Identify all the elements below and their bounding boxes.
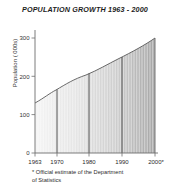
chart-title: POPULATION GROWTH 1963 - 2000 (0, 5, 170, 14)
population-growth-chart: POPULATION GROWTH 1963 - 2000 (0, 0, 170, 193)
chart-footnote: * Official estimate of the Department of… (32, 169, 166, 184)
y-axis-label: Population ( 000s) (12, 23, 18, 103)
x-tick-label-1980: 1980 (82, 159, 96, 165)
x-tick-label-2000: 2000* (148, 159, 164, 165)
chart-plot-area: 300 200 100 0 1963 1970 1980 1990 2000* (0, 20, 170, 165)
y-tick-label-100: 100 (19, 112, 30, 118)
x-tick-label-1990: 1990 (115, 159, 129, 165)
footnote-line-2: of Statistics (32, 177, 166, 185)
area-series-population (35, 38, 155, 153)
x-tick-label-1970: 1970 (50, 159, 64, 165)
x-tick-label-1963: 1963 (28, 159, 42, 165)
y-tick-label-0: 0 (26, 150, 30, 156)
y-tick-label-200: 200 (19, 74, 30, 80)
y-axis-ticks: 300 200 100 0 (19, 35, 35, 156)
y-tick-label-300: 300 (19, 35, 30, 41)
area-hatch-overlay (35, 38, 155, 153)
footnote-line-1: * Official estimate of the Department (32, 169, 166, 177)
x-axis-ticks: 1963 1970 1980 1990 2000* (28, 153, 164, 165)
